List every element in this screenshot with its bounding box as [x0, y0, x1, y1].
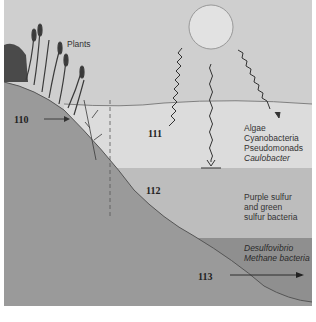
organism-label: Cyanobacteria — [244, 133, 303, 143]
zone-111-organisms: Algae Cyanobacteria Pseudomonads Cauloba… — [244, 123, 303, 163]
sun-icon — [189, 5, 233, 49]
zone-112-organisms: Purple sulfur and green sulfur bacteria — [244, 192, 297, 222]
zone-112-label: 112 — [146, 185, 160, 196]
plants-label: Plants — [67, 39, 91, 49]
organism-label: Caulobacter — [244, 153, 303, 163]
organism-label: sulfur bacteria — [244, 212, 297, 222]
zone-113-organisms: Desulfovibrio Methane bacteria — [244, 243, 310, 263]
zone-111-label: 111 — [148, 128, 162, 139]
organism-label: Algae — [244, 123, 303, 133]
organism-label: Desulfovibrio — [244, 243, 310, 253]
zone-110-label: 110 — [14, 114, 28, 125]
organism-label: and green — [244, 202, 297, 212]
zone-113-label: 113 — [198, 271, 212, 282]
lake-zones-figure: Plants 110 111 112 113 Algae Cyanobacter… — [4, 0, 312, 306]
organism-label: Methane bacteria — [244, 253, 310, 263]
organism-label: Pseudomonads — [244, 143, 303, 153]
organism-label: Purple sulfur — [244, 192, 297, 202]
